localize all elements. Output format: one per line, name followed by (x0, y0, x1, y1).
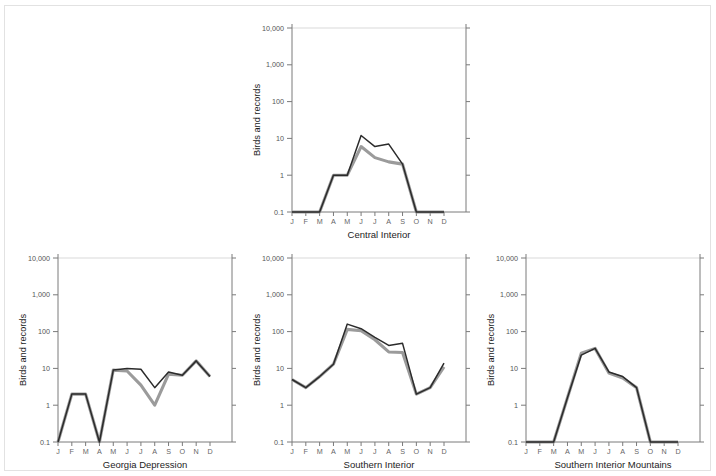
y-tick-label: 10 (510, 364, 518, 373)
x-tick-label: M (344, 447, 350, 456)
y-tick-label: 100 (38, 327, 50, 336)
x-tick-label: N (662, 447, 667, 456)
y-tick-label: 100 (272, 97, 284, 106)
x-tick-label: J (524, 447, 528, 456)
x-tick-label: M (110, 447, 116, 456)
y-axis-label: Birds and records (18, 314, 28, 386)
x-tick-label: J (125, 447, 129, 456)
x-tick-label: J (290, 217, 294, 226)
x-tick-label: D (207, 447, 212, 456)
x-tick-label: J (359, 217, 363, 226)
y-tick-label: 100 (272, 327, 284, 336)
x-tick-label: D (441, 217, 446, 226)
series-line-birds (58, 361, 210, 442)
series-line-records (292, 135, 444, 212)
x-tick-label: J (139, 447, 143, 456)
x-tick-label: F (304, 217, 309, 226)
figure-canvas: 10,0001,0001001010.1JFMAMJJASONDCentral … (0, 0, 716, 476)
plot-central-interior: 10,0001,0001001010.1JFMAMJJASONDCentral … (248, 10, 470, 240)
x-tick-label: D (675, 447, 680, 456)
x-tick-label: M (578, 447, 584, 456)
chart-panel-southern-interior: 10,0001,0001001010.1JFMAMJJASONDSouthern… (248, 240, 470, 470)
y-tick-label: 10 (276, 364, 284, 373)
y-axis-label: Birds and records (252, 84, 262, 156)
x-tick-label: A (565, 447, 570, 456)
x-tick-label: A (97, 447, 102, 456)
x-tick-label: F (70, 447, 75, 456)
series-line-birds (526, 348, 678, 442)
x-tick-label: S (634, 447, 639, 456)
x-tick-label: M (551, 447, 557, 456)
y-tick-label: 10,000 (496, 254, 518, 263)
panel-title: Southern Interior Mountains (554, 459, 671, 470)
x-tick-label: A (620, 447, 625, 456)
x-tick-label: N (194, 447, 199, 456)
x-tick-label: O (414, 447, 420, 456)
x-tick-label: J (373, 447, 377, 456)
x-tick-label: M (83, 447, 89, 456)
x-tick-label: N (428, 217, 433, 226)
y-tick-label: 1,000 (266, 60, 284, 69)
plot-georgia-depression: 10,0001,0001001010.1JFMAMJJASONDGeorgia … (14, 240, 236, 470)
x-tick-label: N (428, 447, 433, 456)
x-tick-label: O (648, 447, 654, 456)
x-tick-label: F (538, 447, 543, 456)
x-tick-label: D (441, 447, 446, 456)
x-tick-label: J (593, 447, 597, 456)
plot-southern-interior-mountains: 10,0001,0001001010.1JFMAMJJASONDSouthern… (482, 240, 704, 470)
series-line-birds (292, 329, 444, 394)
x-tick-label: M (317, 217, 323, 226)
y-tick-label: 1,000 (500, 290, 518, 299)
y-tick-label: 10,000 (262, 254, 284, 263)
x-tick-label: S (400, 217, 405, 226)
x-tick-label: J (607, 447, 611, 456)
x-tick-label: A (386, 447, 391, 456)
chart-panel-central-interior: 10,0001,0001001010.1JFMAMJJASONDCentral … (248, 10, 470, 240)
y-tick-label: 10,000 (262, 24, 284, 33)
y-tick-label: 1 (46, 401, 50, 410)
panel-title: Southern Interior (344, 459, 415, 470)
x-tick-label: J (56, 447, 60, 456)
y-tick-label: 1 (280, 401, 284, 410)
y-tick-label: 1,000 (32, 290, 50, 299)
y-axis-label: Birds and records (252, 314, 262, 386)
panel-title: Georgia Depression (103, 459, 188, 470)
x-tick-label: S (166, 447, 171, 456)
x-tick-label: S (400, 447, 405, 456)
x-tick-label: A (386, 217, 391, 226)
plot-southern-interior: 10,0001,0001001010.1JFMAMJJASONDSouthern… (248, 240, 470, 470)
y-tick-label: 100 (506, 327, 518, 336)
y-tick-label: 10 (42, 364, 50, 373)
x-tick-label: M (344, 217, 350, 226)
y-tick-label: 1 (280, 171, 284, 180)
x-tick-label: F (304, 447, 309, 456)
y-tick-label: 0.1 (274, 438, 284, 447)
y-axis-label: Birds and records (486, 314, 496, 386)
chart-panel-southern-interior-mountains: 10,0001,0001001010.1JFMAMJJASONDSouthern… (482, 240, 704, 470)
x-tick-label: A (331, 217, 336, 226)
x-tick-label: M (317, 447, 323, 456)
y-tick-label: 10 (276, 134, 284, 143)
y-tick-label: 1 (514, 401, 518, 410)
y-tick-label: 1,000 (266, 290, 284, 299)
panel-title: Central Interior (348, 229, 411, 240)
series-line-birds (292, 147, 444, 212)
x-tick-label: O (414, 217, 420, 226)
x-tick-label: J (359, 447, 363, 456)
x-tick-label: O (180, 447, 186, 456)
x-tick-label: J (373, 217, 377, 226)
x-tick-label: J (290, 447, 294, 456)
y-tick-label: 0.1 (40, 438, 50, 447)
x-tick-label: A (152, 447, 157, 456)
x-tick-label: A (331, 447, 336, 456)
series-line-records (58, 361, 210, 442)
y-tick-label: 10,000 (28, 254, 50, 263)
y-tick-label: 0.1 (274, 208, 284, 217)
y-tick-label: 0.1 (508, 438, 518, 447)
chart-panel-georgia-depression: 10,0001,0001001010.1JFMAMJJASONDGeorgia … (14, 240, 236, 470)
